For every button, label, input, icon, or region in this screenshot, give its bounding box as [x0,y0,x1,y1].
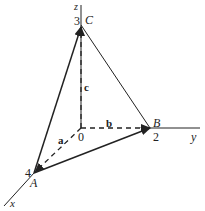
point-c-coord: 3 [74,15,80,27]
y-axis-label: y [191,131,196,143]
point-b-coord: 2 [153,131,159,143]
vector-c-label: c [84,82,89,93]
side-AB [34,128,150,173]
vector-b-label: b [106,118,112,129]
point-a-label: A [30,177,37,189]
z-axis-label: z [74,2,78,12]
origin-label: 0 [78,131,84,143]
point-c-label: C [85,14,93,26]
point-b-label: B [153,117,160,129]
x-axis-label: x [10,198,15,209]
vector-diagram: z 3 C c b a 0 B 2 y 4 A x [0,0,205,211]
vector-a-label: a [58,135,64,146]
side-AC [34,27,81,173]
side-CB [81,25,150,128]
